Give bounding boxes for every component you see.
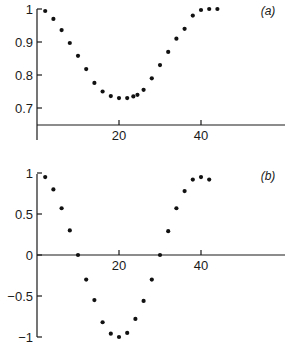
data-point bbox=[43, 9, 47, 13]
data-point bbox=[150, 278, 154, 282]
data-point bbox=[68, 41, 72, 45]
panel-a-chart: 10.90.80.7 2040 (a) bbox=[15, 2, 285, 144]
data-point bbox=[142, 299, 146, 303]
data-point bbox=[150, 76, 154, 80]
data-point bbox=[135, 93, 139, 97]
data-point bbox=[158, 253, 162, 257]
data-point bbox=[60, 28, 64, 32]
data-point bbox=[109, 94, 113, 98]
data-point bbox=[51, 187, 55, 191]
data-point bbox=[125, 331, 129, 335]
data-point bbox=[191, 14, 195, 18]
data-point bbox=[76, 253, 80, 257]
data-point bbox=[174, 37, 178, 41]
x-tick-label: 40 bbox=[194, 128, 208, 143]
data-point bbox=[191, 177, 195, 181]
panel-b-data-points bbox=[43, 175, 211, 339]
data-point bbox=[166, 50, 170, 54]
data-point bbox=[207, 177, 211, 181]
data-point bbox=[158, 63, 162, 67]
data-point bbox=[183, 189, 187, 193]
y-tick-label: 0.7 bbox=[15, 101, 33, 116]
x-tick-label: 40 bbox=[194, 258, 208, 273]
data-point bbox=[101, 89, 105, 93]
data-point bbox=[199, 8, 203, 12]
data-point bbox=[92, 81, 96, 85]
data-point bbox=[131, 94, 135, 98]
panel-b-chart: 10.50−0.5−1 2040 (b) bbox=[7, 166, 285, 345]
y-tick-label: 0.8 bbox=[15, 68, 33, 83]
y-tick-label: 0.9 bbox=[15, 35, 33, 50]
y-tick-label: −1 bbox=[18, 330, 33, 345]
data-point bbox=[199, 175, 203, 179]
data-point bbox=[174, 206, 178, 210]
panel-a-y-ticks: 10.90.80.7 bbox=[15, 2, 42, 116]
data-point bbox=[117, 335, 121, 339]
data-point bbox=[76, 54, 80, 58]
y-tick-label: 0 bbox=[26, 248, 33, 263]
x-tick-label: 20 bbox=[112, 128, 126, 143]
data-point bbox=[60, 206, 64, 210]
figure: 10.90.80.7 2040 (a) 10.50−0.5−1 2040 (b) bbox=[0, 0, 293, 349]
y-tick-label: 1 bbox=[26, 166, 33, 181]
data-point bbox=[183, 27, 187, 31]
panel-a-label: (a) bbox=[261, 4, 276, 18]
data-point bbox=[133, 317, 137, 321]
data-point bbox=[101, 320, 105, 324]
data-point bbox=[109, 332, 113, 336]
panel-b-label: (b) bbox=[261, 169, 276, 183]
x-tick-label: 20 bbox=[112, 258, 126, 273]
data-point bbox=[142, 88, 146, 92]
data-point bbox=[68, 228, 72, 232]
data-point bbox=[125, 96, 129, 100]
data-point bbox=[215, 7, 219, 11]
data-point bbox=[92, 298, 96, 302]
data-point bbox=[51, 17, 55, 21]
y-tick-label: 0.5 bbox=[15, 207, 33, 222]
data-point bbox=[207, 7, 211, 11]
data-point bbox=[166, 229, 170, 233]
data-point bbox=[84, 67, 88, 71]
data-point bbox=[117, 96, 121, 100]
data-point bbox=[84, 278, 88, 282]
y-tick-label: −0.5 bbox=[7, 289, 33, 304]
y-tick-label: 1 bbox=[26, 2, 33, 17]
panel-a-data-points bbox=[43, 7, 219, 100]
panel-a-x-ticks: 2040 bbox=[112, 120, 208, 143]
data-point bbox=[43, 175, 47, 179]
